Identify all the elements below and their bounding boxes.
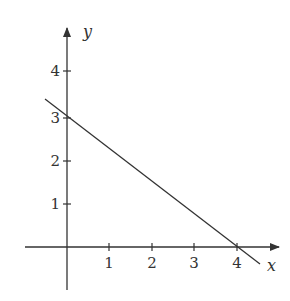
data-line bbox=[45, 99, 260, 264]
y-axis-label: y bbox=[82, 22, 93, 41]
x-tick-label-4: 4 bbox=[232, 254, 242, 272]
x-axis-label: x bbox=[267, 256, 276, 275]
y-tick-label-3: 3 bbox=[50, 109, 60, 127]
y-tick-label-4: 4 bbox=[50, 62, 60, 80]
x-tick-label-3: 3 bbox=[189, 254, 199, 272]
y-tick-label-1: 1 bbox=[50, 195, 60, 213]
x-tick-label-1: 1 bbox=[104, 254, 114, 272]
x-tick-label-2: 2 bbox=[147, 254, 157, 272]
y-tick-label-2: 2 bbox=[50, 152, 60, 170]
line-graph: 1 2 3 4 1 2 3 4 x y bbox=[0, 0, 290, 301]
